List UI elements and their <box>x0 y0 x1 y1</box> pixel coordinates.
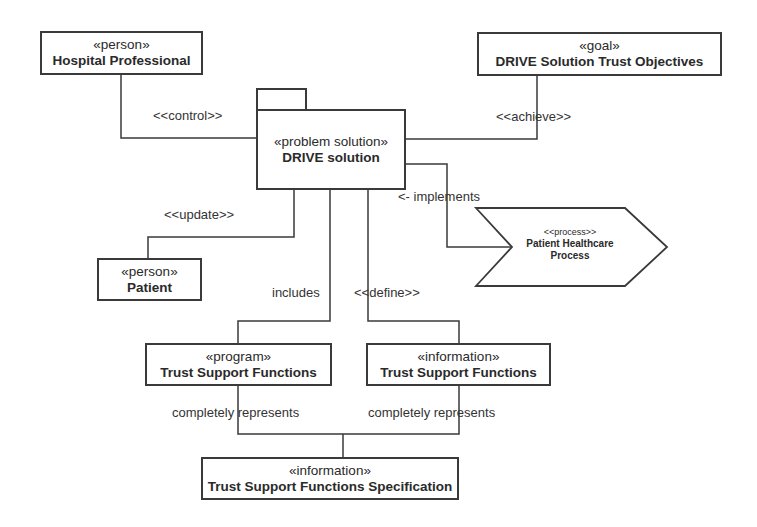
node-name: Patient <box>127 280 172 296</box>
achieve-connector <box>405 75 537 139</box>
edge-label-achieve: <<achieve>> <box>496 109 571 124</box>
edge-label-control: <<control>> <box>153 108 222 123</box>
node-name: Trust Support Functions Specification <box>208 479 453 495</box>
node-name: Trust Support Functions <box>380 365 537 381</box>
node-patient-process[interactable]: <<process>> Patient Healthcare Process <box>500 227 640 262</box>
node-tsf-specification[interactable]: «information» Trust Support Functions Sp… <box>201 457 459 500</box>
edge-label-define: <<define>> <box>354 285 420 300</box>
stereotype-label: «person» <box>93 37 149 53</box>
node-program-tsf[interactable]: «program» Trust Support Functions <box>145 343 332 386</box>
stereotype-label: «goal» <box>579 38 620 54</box>
node-name-line1: Patient Healthcare <box>500 238 640 250</box>
implements-connector <box>405 164 512 247</box>
edge-label-implements: <- implements <box>398 189 480 204</box>
stereotype-label: «program» <box>206 349 271 365</box>
stereotype-label: «person» <box>121 264 177 280</box>
edge-label-represents-right: completely represents <box>368 405 495 420</box>
node-information-tsf[interactable]: «information» Trust Support Functions <box>366 343 551 386</box>
edge-label-represents-left: completely represents <box>172 405 299 420</box>
update-connector <box>148 189 294 258</box>
node-name: DRIVE solution <box>282 150 380 166</box>
node-hospital-professional[interactable]: «person» Hospital Professional <box>40 31 203 75</box>
define-connector <box>368 189 459 343</box>
package-tab <box>256 88 307 111</box>
edge-label-update: <<update>> <box>164 207 234 222</box>
control-connector <box>121 74 256 138</box>
node-patient[interactable]: «person» Patient <box>97 258 202 301</box>
stereotype-label: «problem solution» <box>274 134 388 150</box>
includes-connector <box>238 189 330 343</box>
stereotype-label: «information» <box>289 463 371 479</box>
node-name: DRIVE Solution Trust Objectives <box>496 54 704 70</box>
stereotype-label: <<process>> <box>500 227 640 238</box>
node-drive-solution[interactable]: «problem solution» DRIVE solution <box>256 109 406 190</box>
node-name: Trust Support Functions <box>160 365 317 381</box>
node-name: Hospital Professional <box>52 53 190 69</box>
stereotype-label: «information» <box>418 349 500 365</box>
node-trust-objectives[interactable]: «goal» DRIVE Solution Trust Objectives <box>477 32 722 76</box>
node-name-line2: Process <box>500 250 640 262</box>
diagram-canvas: «person» Hospital Professional «goal» DR… <box>0 0 757 527</box>
edge-label-includes: includes <box>272 285 320 300</box>
